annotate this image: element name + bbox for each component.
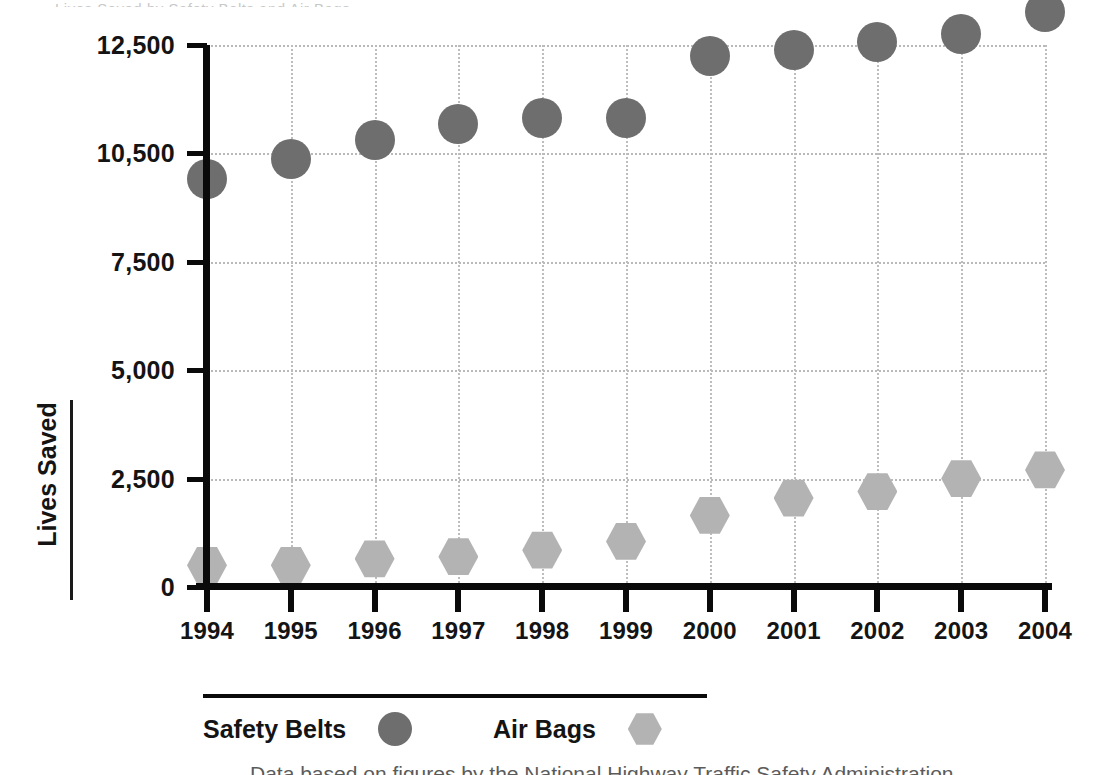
- x-axis-tick: [1042, 590, 1048, 612]
- y-axis-line: [203, 45, 210, 590]
- data-point-marker: [690, 36, 730, 76]
- y-axis-tick-labels: 02,5005,0007,50010,50012,500: [0, 45, 175, 587]
- gridline-vertical: [1045, 45, 1047, 587]
- data-point-marker: [355, 120, 395, 160]
- y-axis-tick-label: 7,500: [111, 247, 175, 276]
- legend-label: Safety Belts: [203, 715, 346, 744]
- x-axis-tick-label: 1997: [431, 617, 485, 645]
- y-axis-tick-label: 12,500: [97, 31, 175, 60]
- data-point-marker: [774, 30, 814, 70]
- y-axis-tick-label: 10,500: [97, 139, 175, 168]
- data-point-marker: [1025, 0, 1065, 32]
- y-axis-tick-label: 0: [161, 573, 175, 602]
- x-axis-tick: [958, 590, 964, 612]
- x-axis-tick: [288, 590, 294, 612]
- x-axis-tick-label: 1998: [515, 617, 569, 645]
- x-axis-tick-labels: 1994199519961997199819992000200120022003…: [207, 617, 1045, 651]
- x-axis-tick-label: 1994: [180, 617, 234, 645]
- data-point-marker: [941, 14, 981, 54]
- data-point-marker: [606, 98, 646, 138]
- y-axis-tick-label: 5,000: [111, 356, 175, 385]
- x-axis-line: [196, 583, 1052, 590]
- x-axis-tick: [874, 590, 880, 612]
- plot-area: [207, 45, 1045, 587]
- x-axis-tick: [707, 590, 713, 612]
- data-point-marker: [941, 459, 981, 499]
- data-point-marker: [857, 22, 897, 62]
- x-axis-tick-label: 2002: [850, 617, 904, 645]
- legend-hexagon-icon: [628, 712, 662, 746]
- data-point-marker: [690, 495, 730, 535]
- x-axis-tick: [455, 590, 461, 612]
- legend-label: Air Bags: [493, 715, 596, 744]
- lives-saved-scatter-chart: Lives Saved 02,5005,0007,50010,50012,500…: [0, 0, 1105, 775]
- x-axis-tick-label: 1995: [264, 617, 318, 645]
- data-point-marker: [438, 104, 478, 144]
- x-axis-tick: [791, 590, 797, 612]
- x-axis-tick: [623, 590, 629, 612]
- legend-entry-safety-belts[interactable]: Safety Belts: [203, 712, 412, 746]
- data-point-marker: [606, 521, 646, 561]
- legend-rule: [203, 694, 707, 698]
- x-axis-tick-label: 1996: [347, 617, 401, 645]
- x-axis-tick-label: 2001: [766, 617, 820, 645]
- data-point-marker: [857, 472, 897, 512]
- data-point-marker: [271, 545, 311, 585]
- gridline-vertical: [961, 45, 963, 587]
- x-axis-tick-label: 2004: [1018, 617, 1072, 645]
- x-axis-tick-label: 2003: [934, 617, 988, 645]
- data-point-marker: [271, 139, 311, 179]
- x-axis-tick: [204, 590, 210, 612]
- y-axis-tick-label: 2,500: [111, 464, 175, 493]
- chart-legend: Safety BeltsAir Bags: [203, 694, 707, 750]
- x-axis-tick-label: 1999: [599, 617, 653, 645]
- data-point-marker: [355, 539, 395, 579]
- x-axis-tick: [372, 590, 378, 612]
- x-axis-tick: [539, 590, 545, 612]
- legend-entry-air-bags[interactable]: Air Bags: [493, 712, 662, 746]
- gridline-vertical: [291, 45, 293, 587]
- x-axis-ticks: [207, 590, 1045, 612]
- legend-circle-icon: [378, 712, 412, 746]
- x-axis-tick-label: 2000: [683, 617, 737, 645]
- data-point-marker: [774, 478, 814, 518]
- data-point-marker: [522, 530, 562, 570]
- data-point-marker: [1025, 450, 1065, 490]
- data-point-marker: [438, 537, 478, 577]
- data-point-marker: [522, 98, 562, 138]
- chart-caption: Data based on figures by the National Hi…: [250, 762, 1010, 775]
